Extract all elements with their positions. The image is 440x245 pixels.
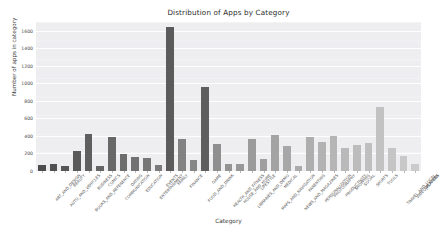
- x-tick-mark: [404, 171, 405, 173]
- bar: [365, 143, 373, 171]
- x-tick-mark: [147, 171, 148, 173]
- x-tick-mark: [100, 171, 101, 173]
- y-tick-label: 1200: [21, 63, 33, 68]
- x-tick-mark: [392, 171, 393, 173]
- bar: [143, 158, 151, 171]
- bar: [73, 151, 81, 171]
- bar: [225, 164, 233, 171]
- x-tick-label: FINANCE: [189, 173, 204, 189]
- plot-area: [36, 22, 421, 171]
- bar: [388, 148, 396, 171]
- x-axis: ART_AND_DESIGNAUTO_AND_VEHICLESBEAUTYBOO…: [36, 171, 421, 216]
- bar: [330, 136, 338, 171]
- x-tick-mark: [217, 171, 218, 173]
- bar: [318, 142, 326, 171]
- x-tick-mark: [264, 171, 265, 173]
- bar: [190, 160, 198, 171]
- bar: [108, 137, 116, 171]
- x-tick-mark: [42, 171, 43, 173]
- bar: [178, 139, 186, 171]
- bar: [201, 87, 209, 171]
- bar: [306, 137, 314, 171]
- x-tick-mark: [194, 171, 195, 173]
- x-tick-mark: [124, 171, 125, 173]
- y-axis: 02004006008001000120014001600: [0, 22, 36, 171]
- x-tick-mark: [380, 171, 381, 173]
- x-tick-mark: [77, 171, 78, 173]
- x-tick-mark: [89, 171, 90, 173]
- x-tick-mark: [205, 171, 206, 173]
- x-tick-mark: [275, 171, 276, 173]
- x-tick-label: BEAUTY: [72, 173, 86, 188]
- x-tick-mark: [240, 171, 241, 173]
- x-tick-mark: [287, 171, 288, 173]
- x-tick-mark: [229, 171, 230, 173]
- x-tick-mark: [369, 171, 370, 173]
- bar: [131, 157, 139, 171]
- x-tick-mark: [54, 171, 55, 173]
- x-tick-mark: [322, 171, 323, 173]
- y-tick-label: 400: [24, 133, 33, 138]
- x-tick-mark: [135, 171, 136, 173]
- bar: [166, 27, 174, 171]
- x-axis-label: Category: [36, 218, 421, 224]
- bar: [341, 148, 349, 171]
- bar: [248, 139, 256, 171]
- y-tick-label: 0: [30, 169, 33, 174]
- bar: [50, 164, 58, 171]
- x-tick-mark: [252, 171, 253, 173]
- x-tick-mark: [299, 171, 300, 173]
- bar: [85, 134, 93, 171]
- y-axis-label: Number of apps in category: [11, 18, 17, 96]
- bar: [260, 159, 268, 171]
- bar: [271, 135, 279, 171]
- bar: [400, 156, 408, 171]
- bar: [411, 164, 419, 171]
- x-tick-mark: [334, 171, 335, 173]
- bar: [353, 145, 361, 171]
- x-tick-mark: [159, 171, 160, 173]
- x-tick-mark: [357, 171, 358, 173]
- y-tick-label: 600: [24, 116, 33, 121]
- y-tick-label: 1400: [21, 46, 33, 51]
- x-tick-mark: [310, 171, 311, 173]
- chart-title: Distribution of Apps by Category: [36, 8, 421, 17]
- y-tick-label: 800: [24, 98, 33, 103]
- x-tick-mark: [182, 171, 183, 173]
- x-tick-mark: [65, 171, 66, 173]
- bar: [213, 144, 221, 171]
- bar: [283, 146, 291, 171]
- x-tick-mark: [112, 171, 113, 173]
- x-tick-mark: [415, 171, 416, 173]
- bar: [376, 107, 384, 171]
- y-tick-label: 1000: [21, 81, 33, 86]
- bar: [120, 154, 128, 171]
- y-tick-label: 200: [24, 151, 33, 156]
- y-tick-label: 1600: [21, 28, 33, 33]
- x-tick-mark: [170, 171, 171, 173]
- bar-series: [36, 22, 421, 171]
- x-tick-mark: [345, 171, 346, 173]
- bar: [236, 164, 244, 171]
